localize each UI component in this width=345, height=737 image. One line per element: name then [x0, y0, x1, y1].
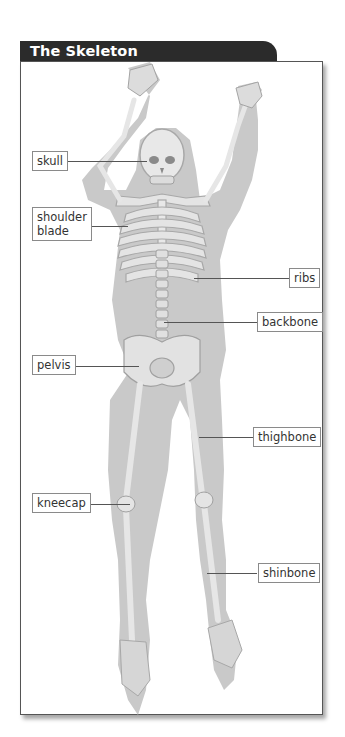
- pelvis: [124, 335, 200, 386]
- thighbone-leader: [199, 437, 254, 438]
- label-backbone: backbone: [257, 312, 323, 332]
- label-ribs: ribs: [289, 268, 320, 288]
- label-shinbone: shinbone: [258, 563, 320, 583]
- label-pelvis: pelvis: [32, 355, 76, 375]
- label-thighbone: thighbone: [253, 427, 321, 447]
- skull-leader: [61, 161, 147, 162]
- shinbone-leader: [207, 573, 257, 574]
- pelvis-leader: [71, 366, 139, 367]
- label-kneecap: kneecap: [32, 493, 91, 513]
- ribs-leader: [194, 278, 290, 279]
- label-shoulder-blade: shoulder blade: [32, 207, 92, 241]
- backbone-leader: [164, 322, 258, 323]
- backbone: [156, 250, 168, 338]
- label-skull: skull: [32, 151, 68, 171]
